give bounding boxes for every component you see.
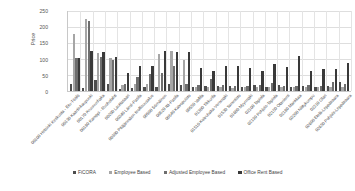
bar bbox=[261, 71, 263, 91]
y-axis-tick-label: 50 bbox=[42, 73, 48, 79]
bar-group bbox=[289, 11, 301, 91]
bar-group bbox=[313, 11, 325, 91]
bar bbox=[78, 58, 80, 91]
bar bbox=[151, 66, 153, 91]
bar-group bbox=[326, 11, 338, 91]
legend-item[interactable]: Employee Based bbox=[109, 170, 151, 175]
bar-group bbox=[142, 11, 154, 91]
x-axis-category-label: 00100 Helsinki Keskusta - Etu-Töölö bbox=[30, 93, 81, 145]
gridline-vertical bbox=[351, 11, 352, 91]
bar bbox=[286, 67, 288, 91]
bar-group bbox=[252, 11, 264, 91]
bar bbox=[200, 68, 202, 91]
bar-group bbox=[203, 11, 215, 91]
plot-wrapper: 050100150200250 bbox=[50, 11, 351, 92]
bar-groups bbox=[68, 11, 351, 91]
legend-label: FiCORA bbox=[78, 170, 96, 175]
legend-swatch-icon bbox=[109, 171, 112, 174]
bar bbox=[249, 68, 251, 91]
bar bbox=[127, 73, 129, 91]
chart-legend: FiCORAEmployee BasedAdjusted Employee Ba… bbox=[0, 170, 355, 175]
bar bbox=[225, 66, 227, 91]
bar-group bbox=[118, 11, 130, 91]
bar bbox=[347, 63, 349, 91]
legend-item[interactable]: Adjusted Employee Based bbox=[164, 170, 226, 175]
bar-group bbox=[277, 11, 289, 91]
bar-group bbox=[338, 11, 350, 91]
legend-swatch-icon bbox=[73, 171, 76, 174]
bar bbox=[298, 56, 300, 91]
legend-label: Office Rent Based bbox=[244, 170, 283, 175]
bar-group bbox=[301, 11, 313, 91]
y-axis-tick-label: 250 bbox=[40, 8, 49, 14]
y-axis-tick-label: 150 bbox=[40, 40, 49, 46]
legend-swatch-icon bbox=[238, 171, 241, 174]
bar bbox=[335, 69, 337, 91]
legend-swatch-icon bbox=[164, 171, 167, 174]
bar-group bbox=[81, 11, 93, 91]
bar-group bbox=[130, 11, 142, 91]
bar-group bbox=[93, 11, 105, 91]
y-axis-tick-label: 0 bbox=[45, 89, 48, 95]
bar-group bbox=[228, 11, 240, 91]
bar-group bbox=[216, 11, 228, 91]
bar-group bbox=[69, 11, 81, 91]
bar-group bbox=[179, 11, 191, 91]
x-axis-category-labels: 00100 Helsinki Keskusta - Etu-Töölö00130… bbox=[67, 93, 351, 163]
legend-label: Employee Based bbox=[114, 170, 150, 175]
bar-group bbox=[155, 11, 167, 91]
bar-group bbox=[240, 11, 252, 91]
bar bbox=[310, 71, 312, 91]
y-axis-tick-label: 100 bbox=[40, 57, 49, 63]
bar bbox=[102, 52, 104, 91]
bar bbox=[273, 64, 275, 91]
bar bbox=[237, 66, 239, 91]
bar-group bbox=[265, 11, 277, 91]
bar-group bbox=[167, 11, 179, 91]
bar bbox=[164, 51, 166, 91]
bar bbox=[212, 71, 214, 91]
y-axis-tick-labels: 050100150200250 bbox=[34, 11, 48, 92]
legend-item[interactable]: Office Rent Based bbox=[238, 170, 282, 175]
bar bbox=[188, 52, 190, 91]
y-axis-tick-label: 200 bbox=[40, 24, 49, 30]
plot-area bbox=[67, 11, 351, 92]
legend-item[interactable]: FiCORA bbox=[73, 170, 96, 175]
legend-label: Adjusted Employee Based bbox=[169, 170, 225, 175]
bar-group bbox=[191, 11, 203, 91]
bar-group bbox=[106, 11, 118, 91]
bar bbox=[139, 66, 141, 91]
bar bbox=[115, 57, 117, 91]
bar-chart: Price 050100150200250 00100 Helsinki Kes… bbox=[0, 0, 355, 191]
bar bbox=[176, 52, 178, 91]
bar bbox=[90, 51, 92, 91]
bar bbox=[322, 69, 324, 91]
